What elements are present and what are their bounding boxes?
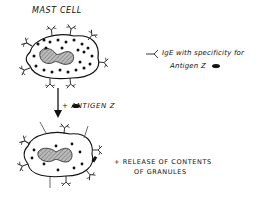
step-label: + ANTIGEN Z xyxy=(62,102,115,110)
result-line-2: OF GRANULES xyxy=(134,168,187,176)
cell-title: MAST CELL xyxy=(32,6,82,15)
mast-cell-top xyxy=(19,24,109,88)
arrow-down-icon xyxy=(54,88,62,118)
diagram-canvas xyxy=(0,0,264,197)
result-line-1: + RELEASE OF CONTENTS xyxy=(114,158,212,166)
mast-cell-bottom xyxy=(17,122,102,188)
legend-line-2: Antigen Z xyxy=(170,62,206,70)
antigen-legend-icon xyxy=(212,64,220,68)
ige-legend-icon xyxy=(146,50,158,58)
legend-line-1: IgE with specificity for xyxy=(162,49,244,57)
